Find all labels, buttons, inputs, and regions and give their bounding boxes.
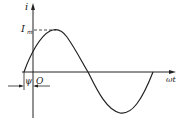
amplitude-label: I	[20, 23, 26, 34]
y-axis-arrow-icon	[31, 3, 35, 10]
amplitude-subscript: m	[27, 28, 33, 35]
y-axis-label: i	[25, 1, 28, 12]
sine-curve	[24, 30, 153, 114]
origin-label: O	[36, 76, 44, 86]
x-axis-label: ωt	[166, 75, 177, 84]
phase-arrow-left-icon	[19, 85, 24, 88]
sine-wave-diagram: i I m ψ O ωt	[0, 0, 184, 127]
x-axis-arrow-icon	[169, 70, 176, 74]
phase-label: ψ	[25, 76, 33, 86]
